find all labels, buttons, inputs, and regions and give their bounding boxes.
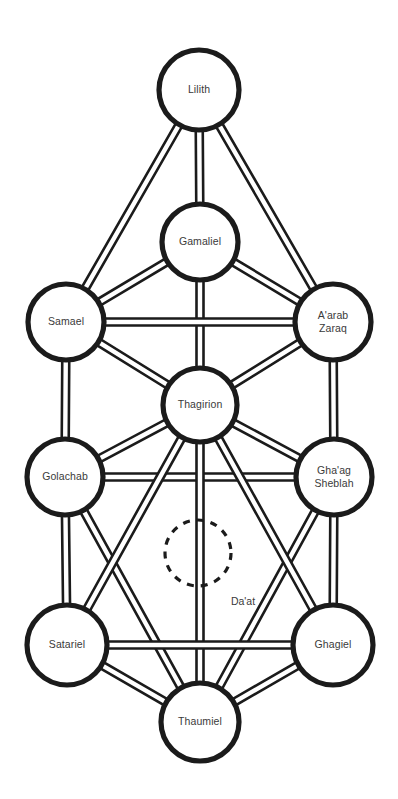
node-label-gamaliel: Gamaliel (179, 235, 221, 247)
node-label-ghaag-sheblah: Gha'agSheblah (314, 463, 353, 488)
path-satariel-to-ghagiel (104, 642, 296, 649)
node-label-golachab: Golachab (42, 470, 88, 482)
path-gamaliel-to-samael (94, 257, 171, 307)
path-ghagiel-to-thaumiel (229, 661, 302, 707)
path-satariel-to-thaumiel (97, 661, 170, 707)
path-lilith-to-samael (80, 120, 183, 293)
node-label-thagirion: Thagirion (178, 398, 223, 410)
node-label-lilith: Lilith (188, 83, 210, 95)
path-ghaag-sheblah-to-ghagiel (330, 512, 338, 608)
qliphoth-tree-diagram: Da'at LilithGamalielSamaelA'arabZaraqTha… (0, 0, 398, 799)
path-aarab-zaraq-to-ghaag-sheblah (330, 357, 338, 442)
path-gamaliel-to-aarab-zaraq (228, 257, 305, 307)
node-label-samael: Samael (48, 315, 84, 327)
path-aarab-zaraq-to-thagirion (227, 338, 305, 390)
path-ghaag-sheblah-to-thagirion (228, 418, 305, 464)
node-label-aarab-zaraq: A'arabZaraq (318, 308, 349, 333)
path-golachab-to-satariel (62, 512, 70, 608)
node-label-ghagiel: Ghagiel (315, 638, 352, 650)
node-label-satariel: Satariel (49, 638, 85, 650)
daat-hidden-sephirah: Da'at (165, 520, 255, 607)
path-golachab-to-thagirion (94, 418, 171, 464)
daat-label: Da'at (231, 595, 255, 607)
path-lilith-to-gamaliel (196, 127, 204, 207)
tree-of-death-svg: Da'at LilithGamalielSamaelA'arabZaraqTha… (0, 0, 398, 799)
path-samael-to-aarab-zaraq (101, 319, 298, 326)
path-samael-to-golachab (62, 357, 70, 442)
path-samael-to-thagirion (94, 337, 173, 390)
node-label-thaumiel: Thaumiel (178, 715, 222, 727)
